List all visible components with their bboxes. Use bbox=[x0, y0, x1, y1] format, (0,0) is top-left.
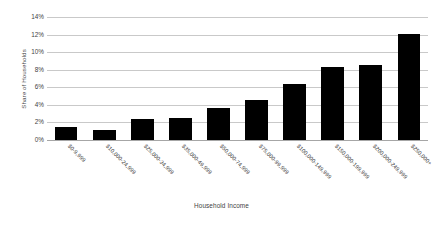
bar-chart: Share of Households 14%12%10%8%6%4%2%0% … bbox=[0, 0, 443, 228]
bar bbox=[321, 67, 344, 140]
bar bbox=[283, 84, 306, 140]
bar bbox=[55, 127, 78, 140]
bar bbox=[169, 118, 192, 140]
x-axis-tick-label: $100,000-149,999 bbox=[295, 143, 332, 180]
y-axis-tick-label: 6% bbox=[4, 84, 44, 90]
x-axis-tick-label: $200,000-249,999 bbox=[372, 143, 409, 180]
x-axis-tick-label: $0-9,999 bbox=[67, 143, 87, 163]
x-axis-title: Household Income bbox=[0, 202, 443, 209]
x-axis-ticks: $0-9,999$10,000-24,999$25,000-34,999$35,… bbox=[47, 141, 428, 196]
bar bbox=[245, 100, 268, 140]
y-axis-tick-label: 12% bbox=[4, 32, 44, 38]
y-axis-tick-label: 0% bbox=[4, 137, 44, 143]
x-axis-tick-label: $25,000-34,999 bbox=[143, 143, 175, 175]
bar bbox=[131, 119, 154, 140]
x-axis-tick-label: $50,000-74,999 bbox=[219, 143, 251, 175]
y-axis-tick-label: 4% bbox=[4, 102, 44, 108]
bar bbox=[93, 130, 116, 140]
y-axis-tick-label: 10% bbox=[4, 49, 44, 55]
bar bbox=[359, 65, 382, 140]
bar bbox=[207, 108, 230, 140]
x-axis-tick-label: $10,000-24,999 bbox=[105, 143, 137, 175]
x-axis-tick-label: $150,000-199,999 bbox=[334, 143, 371, 180]
x-axis-tick-label: $250,000+ bbox=[410, 143, 433, 166]
y-axis-tick-label: 14% bbox=[4, 14, 44, 20]
y-axis-tick-label: 2% bbox=[4, 119, 44, 125]
x-axis-tick-label: $35,000-49,999 bbox=[181, 143, 213, 175]
bar-series bbox=[47, 17, 428, 140]
y-axis-ticks: 14%12%10%8%6%4%2%0% bbox=[0, 17, 44, 140]
y-axis-tick-label: 8% bbox=[4, 67, 44, 73]
x-axis-tick-label: $75,000-99,999 bbox=[257, 143, 289, 175]
bar bbox=[398, 34, 421, 140]
